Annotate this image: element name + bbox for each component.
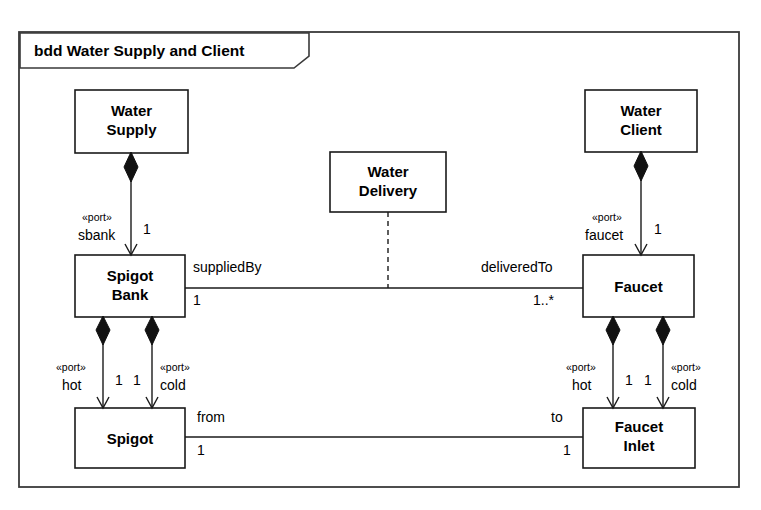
block-faucet[interactable]: Faucet [583,255,694,317]
port-stereotype-label: «port» [160,361,190,373]
block-water-supply-name-line2: Supply [106,121,157,138]
association-source-role-label: from [197,409,225,425]
block-spigot-name-line1: Spigot [107,430,154,447]
port-stereotype-label: «port» [592,211,622,223]
association-target-multiplicity-label: 1 [563,442,571,458]
block-water-supply-name-line1: Water [111,102,152,119]
block-spigot-bank-name-line1: Spigot [107,267,154,284]
port-stereotype-label: «port» [56,361,86,373]
association-source-role-label: suppliedBy [193,259,262,275]
association-target-role-label: deliveredTo [481,259,553,275]
multiplicity-label: 1 [654,221,662,237]
block-water-client[interactable]: Water Client [585,90,697,152]
multiplicity-label: 1 [133,372,141,388]
association-source-multiplicity-label: 1 [193,292,201,308]
association-target-multiplicity-label: 1..* [533,292,555,308]
block-water-delivery-name-line1: Water [367,163,408,180]
port-name-label-faucet: faucet [585,227,623,243]
multiplicity-label: 1 [143,221,151,237]
port-name-label-cold: cold [160,377,186,393]
block-water-supply[interactable]: Water Supply [75,90,188,153]
block-spigot[interactable]: Spigot [75,408,185,468]
diagram-header-label: bdd Water Supply and Client [34,42,244,59]
multiplicity-label: 1 [644,372,652,388]
multiplicity-label: 1 [625,372,633,388]
block-water-client-name-line2: Client [620,121,662,138]
multiplicity-label: 1 [115,372,123,388]
port-stereotype-label: «port» [566,361,596,373]
block-faucet-inlet-name-line2: Inlet [624,437,655,454]
port-stereotype-label: «port» [82,211,112,223]
port-name-label-hot: hot [572,377,592,393]
association-source-multiplicity-label: 1 [197,442,205,458]
block-spigot-bank-name-line2: Bank [112,286,149,303]
block-water-delivery-name-line2: Delivery [359,182,418,199]
block-definition-diagram: bdd Water Supply and Client Water Supply… [0,0,761,510]
block-spigot-bank[interactable]: Spigot Bank [75,255,185,317]
port-name-label-cold: cold [671,377,697,393]
block-faucet-name-line1: Faucet [614,278,662,295]
port-name-label-hot: hot [62,377,82,393]
port-stereotype-label: «port» [671,361,701,373]
block-faucet-inlet-name-line1: Faucet [615,418,663,435]
block-water-client-name-line1: Water [620,102,661,119]
association-target-role-label: to [551,409,563,425]
port-name-label-sbank: sbank [78,227,116,243]
block-water-delivery[interactable]: Water Delivery [330,152,446,212]
bdd-diagram-canvas: bdd Water Supply and Client Water Supply… [0,0,761,510]
block-faucet-inlet[interactable]: Faucet Inlet [583,408,695,468]
